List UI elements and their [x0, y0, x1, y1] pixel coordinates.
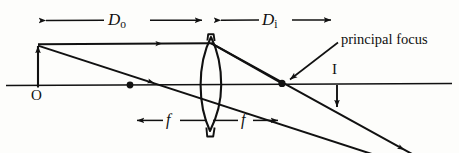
focal-length-left-label: f	[166, 112, 170, 128]
ray-diagram-canvas	[0, 0, 459, 153]
object-distance-label: Do	[108, 11, 126, 30]
image-point-label: I	[332, 62, 337, 77]
image-distance-label: Di	[262, 11, 278, 30]
ray-diagram-figure: Do Di f f O I principal focus	[0, 0, 459, 153]
focal-length-right-label: f	[241, 112, 245, 128]
object-point-label: O	[31, 88, 42, 103]
parallel-ray	[38, 43, 452, 153]
principal-axis	[6, 83, 452, 85]
principal-focus-dot	[278, 80, 285, 87]
principal-focus-leader	[290, 43, 338, 80]
focal-point-left-dot	[127, 82, 134, 89]
principal-focus-label: principal focus	[341, 32, 428, 47]
